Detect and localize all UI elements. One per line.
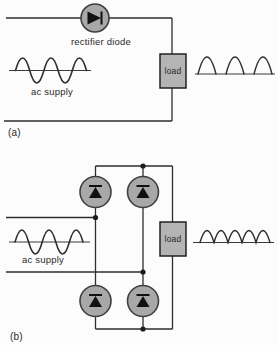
output-hump-3-a [254, 57, 272, 74]
bridge-diode-bottom-left-icon [80, 286, 111, 317]
output-waveform-a [195, 57, 275, 74]
ac-supply-label-b: ac supply [22, 254, 64, 265]
bridge-diode-bottom-right-icon [128, 286, 159, 317]
junction-dot-top [140, 163, 145, 168]
rectifier-diode-icon [81, 4, 109, 32]
figure-a-half-wave-rectifier: rectifier diode ac supply load (a) [4, 4, 275, 138]
diagram-canvas: rectifier diode ac supply load (a) [0, 0, 277, 345]
panel-label-b: (b) [10, 331, 23, 342]
ac-supply-waveform-b [9, 230, 90, 254]
load-a: load [160, 54, 186, 88]
figure-b-bridge-rectifier: ac supply load (b) [6, 163, 274, 342]
load-b: load [160, 222, 186, 256]
junction-dot-right [140, 269, 145, 274]
rectifier-circuits-figure: rectifier diode ac supply load (a) [0, 0, 277, 345]
ac-supply-waveform-a [9, 58, 91, 83]
rectifier-diode-label: rectifier diode [71, 36, 131, 47]
load-label-b: load [165, 234, 182, 244]
ac-supply-label-a: ac supply [31, 86, 73, 97]
junction-dot-bottom [140, 326, 145, 331]
bridge-diode-top-right-icon [128, 177, 159, 208]
output-humps-b [200, 231, 270, 243]
junction-dot-left [93, 215, 98, 220]
output-waveform-b [193, 231, 274, 243]
bridge-diode-top-left-icon [80, 177, 111, 208]
panel-label-a: (a) [8, 127, 21, 138]
output-hump-2-a [226, 57, 244, 74]
load-label-a: load [165, 66, 182, 76]
output-hump-1-a [198, 57, 216, 74]
